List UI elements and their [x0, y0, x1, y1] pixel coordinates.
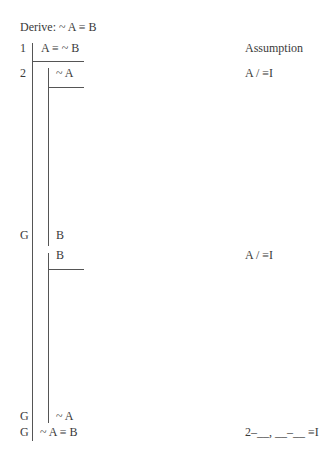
formula: ~ A	[56, 66, 74, 80]
formula: B	[56, 228, 64, 242]
assumption-1-underline	[32, 61, 84, 62]
subproof-1-assumption-underline	[48, 87, 84, 88]
justification: A / ≡I	[245, 66, 273, 80]
formula: ~ A	[56, 409, 74, 423]
line-number: 2	[20, 66, 26, 80]
subproof-2-assumption-underline	[48, 269, 84, 270]
justification: 2–__, __–__ ≡I	[245, 425, 319, 439]
formula: B	[56, 248, 64, 262]
subproof-2-scope-line	[48, 253, 49, 423]
formula: A ≡ ~ B	[41, 41, 79, 55]
derive-goal: Derive: ~ A ≡ B	[20, 20, 97, 34]
justification: A / ≡I	[245, 248, 273, 262]
line-number: 1	[20, 41, 26, 55]
subproof-1-scope-line	[48, 68, 49, 246]
line-number: G	[20, 425, 29, 439]
justification: Assumption	[245, 41, 303, 55]
main-scope-line	[32, 43, 33, 441]
formula: ~ A ≡ B	[40, 425, 78, 439]
line-number: G	[20, 228, 29, 242]
line-number: G	[20, 409, 29, 423]
